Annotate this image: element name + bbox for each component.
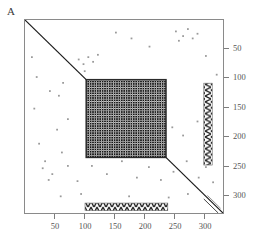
horizontal-repeat-band: [85, 203, 168, 211]
dotplot-figure: A: [0, 0, 258, 245]
plot-area: [25, 20, 223, 213]
y-tick-label-200: 200: [233, 131, 246, 141]
y-tick-300: [224, 195, 229, 196]
short-parallel-diagonal-2: [207, 195, 220, 208]
dense-repeat-block: [86, 80, 166, 158]
y-tick-200: [224, 136, 229, 137]
x-tick-300: [204, 214, 205, 219]
y-tick-label-150: 150: [233, 102, 246, 112]
x-tick-label-300: 300: [196, 221, 214, 231]
plot-frame: [24, 19, 224, 214]
y-tick-250: [224, 166, 229, 167]
dotplot-canvas: [25, 20, 223, 213]
panel-label: A: [7, 5, 15, 17]
vertical-repeat-band: [204, 83, 212, 165]
y-tick-label-250: 250: [233, 161, 246, 171]
x-tick-label-200: 200: [136, 221, 154, 231]
y-tick-label-100: 100: [233, 72, 246, 82]
x-tick-200: [144, 214, 145, 219]
x-tick-150: [114, 214, 115, 219]
x-tick-label-100: 100: [76, 221, 94, 231]
y-tick-150: [224, 107, 229, 108]
x-tick-250: [174, 214, 175, 219]
x-tick-label-150: 150: [106, 221, 124, 231]
x-tick-label-250: 250: [166, 221, 184, 231]
x-tick-label-50: 50: [47, 221, 63, 231]
y-tick-100: [224, 77, 229, 78]
y-tick-label-300: 300: [233, 190, 246, 200]
y-tick-50: [224, 48, 229, 49]
x-tick-50: [54, 214, 55, 219]
x-tick-100: [84, 214, 85, 219]
y-tick-label-50: 50: [233, 43, 242, 53]
